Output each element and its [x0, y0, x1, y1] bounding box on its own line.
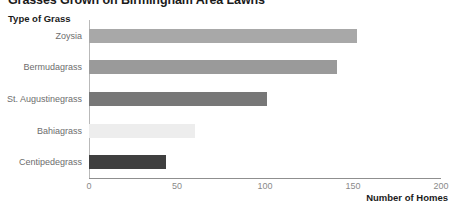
bar-row: [89, 52, 441, 82]
plot-area: [89, 20, 441, 178]
bar-centipedegrass[interactable]: [89, 155, 166, 169]
bar-row: [89, 83, 441, 113]
bar-bahiagrass[interactable]: [89, 124, 195, 138]
x-tick-label: 150: [345, 181, 360, 191]
category-label: Bahiagrass: [0, 124, 82, 138]
x-tick-label: 50: [172, 181, 182, 191]
y-axis-title: Type of Grass: [8, 13, 71, 24]
bar-row: [89, 20, 441, 50]
bar-st-augustinegrass[interactable]: [89, 92, 267, 106]
bar-row: [89, 146, 441, 176]
bar-row: [89, 115, 441, 145]
category-label: Centipedegrass: [0, 155, 82, 169]
bar-chart: Grasses Grown on Birmingham Area Lawns T…: [0, 0, 456, 210]
bar-zoysia[interactable]: [89, 29, 357, 43]
x-tick-label: 0: [86, 181, 91, 191]
category-label: Zoysia: [0, 29, 82, 43]
x-axis-title: Number of Homes: [366, 192, 448, 203]
category-label: St. Augustinegrass: [0, 92, 82, 106]
chart-title: Grasses Grown on Birmingham Area Lawns: [8, 0, 265, 7]
x-axis-line: [89, 178, 441, 179]
bar-bermudagrass[interactable]: [89, 60, 337, 74]
x-tick-label: 100: [257, 181, 272, 191]
x-tick-label: 200: [433, 181, 448, 191]
category-label: Bermudagrass: [0, 60, 82, 74]
